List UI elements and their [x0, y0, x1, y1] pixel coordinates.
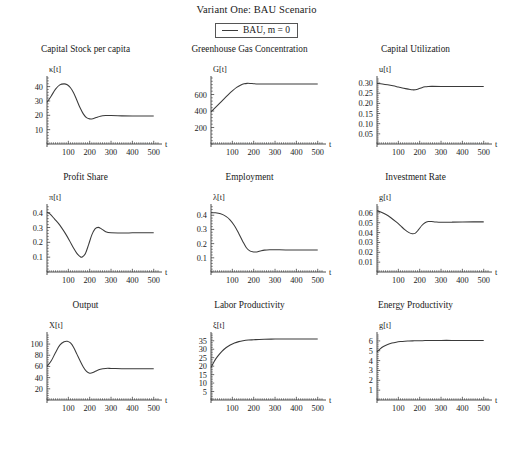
- y-tick-label: 20: [35, 111, 43, 120]
- x-tick-label: 100: [226, 148, 238, 157]
- y-tick-label: 0.4: [33, 209, 44, 218]
- y-tick-label: 10: [199, 379, 207, 388]
- y-tick-label: 5: [369, 347, 373, 356]
- y-tick-label: 25: [199, 354, 207, 363]
- y-tick-label: 600: [195, 91, 207, 100]
- x-tick-label: 400: [456, 276, 468, 285]
- data-curve: [377, 83, 484, 89]
- data-curve: [211, 339, 318, 367]
- y-axis-label: ξ[t]: [213, 321, 225, 330]
- x-tick-label: 200: [247, 276, 259, 285]
- x-tick-label: 200: [413, 404, 425, 413]
- y-tick-label: 80: [35, 351, 43, 360]
- y-tick-label: 100: [31, 340, 43, 349]
- chart-panel-8: Labor Productivity100200300400500t510152…: [164, 300, 335, 428]
- x-tick-label: 100: [62, 276, 74, 285]
- data-curve: [377, 211, 484, 234]
- data-curve: [47, 212, 154, 257]
- plot-area: 100200300400500t20406080100X[t]: [0, 300, 171, 428]
- y-tick-label: 40: [35, 374, 43, 383]
- chart-panel-6: Investment Rate100200300400500t0.010.020…: [330, 172, 501, 300]
- x-tick-label: 200: [247, 404, 259, 413]
- x-tick-label: 300: [105, 404, 117, 413]
- y-tick-label: 30: [35, 97, 43, 106]
- plot-area: 100200300400500t0.050.100.150.200.250.30…: [330, 44, 501, 172]
- chart-panel-4: Profit Share100200300400500t0.10.20.30.4…: [0, 172, 171, 300]
- y-tick-label: 0.3: [197, 225, 207, 234]
- plot-area: 100200300400500t123456g[t]: [330, 300, 501, 428]
- x-tick-label: 500: [312, 404, 324, 413]
- chart-panel-1: Capital Stock per capita100200300400500t…: [0, 44, 171, 172]
- y-tick-label: 0.03: [358, 238, 373, 247]
- x-tick-label: 500: [312, 148, 324, 157]
- y-tick-label: 3: [369, 366, 373, 375]
- y-tick-label: 0.2: [33, 238, 43, 247]
- y-tick-label: 200: [195, 124, 207, 133]
- x-tick-label: 500: [478, 276, 490, 285]
- x-tick-label: 300: [435, 148, 447, 157]
- plot-area: 100200300400500t10203040κ[t]: [0, 44, 171, 172]
- x-tick-label: 400: [290, 404, 302, 413]
- x-tick-label: 200: [83, 404, 95, 413]
- chart-panel-2: Greenhouse Gas Concentration100200300400…: [164, 44, 335, 172]
- y-tick-label: 20: [199, 362, 207, 371]
- y-tick-label: 0.01: [358, 258, 373, 267]
- y-axis-label: κ[t]: [49, 65, 61, 74]
- legend-box: BAU, m = 0: [215, 23, 298, 38]
- y-tick-label: 0.02: [358, 248, 373, 257]
- y-tick-label: 400: [195, 107, 207, 116]
- plot-area: 100200300400500t5101520253035ξ[t]: [164, 300, 335, 428]
- x-tick-label: 300: [105, 276, 117, 285]
- x-tick-label: 100: [226, 404, 238, 413]
- figure-title: Variant One: BAU Scenario: [0, 4, 513, 15]
- x-tick-label: 400: [456, 404, 468, 413]
- plot-area: 100200300400500t0.010.020.030.040.050.06…: [330, 172, 501, 300]
- x-tick-label: 500: [478, 404, 490, 413]
- x-tick-label: 200: [413, 276, 425, 285]
- y-axis-label: g[t]: [379, 193, 391, 202]
- y-tick-label: 30: [199, 345, 207, 354]
- x-tick-label: 100: [392, 276, 404, 285]
- x-tick-label: 200: [413, 148, 425, 157]
- data-curve: [211, 213, 318, 252]
- y-tick-label: 60: [35, 362, 43, 371]
- x-tick-label: 300: [269, 148, 281, 157]
- figure-root: Variant One: BAU Scenario BAU, m = 0 Cap…: [0, 0, 513, 464]
- plot-area: 100200300400500t0.10.20.30.4π[t]: [0, 172, 171, 300]
- x-tick-label: 400: [290, 148, 302, 157]
- x-tick-label: 200: [247, 148, 259, 157]
- data-curve: [47, 84, 154, 119]
- x-tick-label: 400: [126, 276, 138, 285]
- y-axis-label: λ[t]: [213, 193, 225, 202]
- y-tick-label: 1: [369, 386, 373, 395]
- chart-panel-7: Output100200300400500t20406080100X[t]: [0, 300, 171, 428]
- x-tick-label: 400: [126, 404, 138, 413]
- y-tick-label: 2: [369, 376, 373, 385]
- x-tick-label: 100: [62, 148, 74, 157]
- plot-area: 100200300400500t0.10.20.30.4λ[t]: [164, 172, 335, 300]
- y-tick-label: 0.05: [358, 219, 373, 228]
- x-tick-label: 500: [478, 148, 490, 157]
- data-curve: [377, 340, 484, 352]
- x-tick-label: 400: [456, 148, 468, 157]
- y-tick-label: 0.2: [197, 240, 207, 249]
- x-tick-label: 100: [226, 276, 238, 285]
- x-tick-label: 200: [83, 276, 95, 285]
- x-tick-label: 400: [126, 148, 138, 157]
- figure-caption: [30, 452, 500, 463]
- x-tick-label: 100: [62, 404, 74, 413]
- y-tick-label: 10: [35, 126, 43, 135]
- y-tick-label: 35: [199, 337, 207, 346]
- y-axis-label: g[t]: [379, 321, 391, 330]
- x-tick-label: 100: [392, 148, 404, 157]
- data-curve: [47, 341, 154, 373]
- x-tick-label: 200: [83, 148, 95, 157]
- x-axis-label: t: [495, 396, 498, 405]
- y-tick-label: 0.1: [197, 254, 207, 263]
- y-tick-label: 0.3: [33, 224, 43, 233]
- y-axis-label: π[t]: [49, 193, 61, 202]
- x-axis-label: t: [495, 268, 498, 277]
- y-tick-label: 0.1: [33, 253, 43, 262]
- x-axis-label: t: [495, 140, 498, 149]
- legend-line-swatch-icon: [222, 30, 238, 31]
